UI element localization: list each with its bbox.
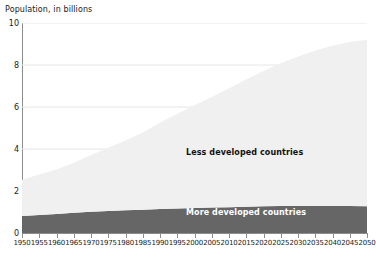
x-tick xyxy=(212,234,213,238)
y-tick-label: 8 xyxy=(3,61,19,70)
y-tick-label: 4 xyxy=(3,145,19,154)
x-tick-label: 1965 xyxy=(65,239,82,247)
x-axis-ticks xyxy=(22,234,368,238)
x-tick xyxy=(74,234,75,238)
x-tick-label: 1960 xyxy=(48,239,65,247)
x-tick-label: 1955 xyxy=(31,239,48,247)
x-tick-label: 1975 xyxy=(100,239,117,247)
series-label-less-developed: Less developed countries xyxy=(186,148,303,157)
x-tick-label: 1985 xyxy=(134,239,151,247)
x-tick xyxy=(177,234,178,238)
y-tick-label: 6 xyxy=(3,103,19,112)
x-tick-label: 1995 xyxy=(169,239,186,247)
x-tick-label: 1990 xyxy=(151,239,168,247)
x-tick xyxy=(108,234,109,238)
x-tick xyxy=(315,234,316,238)
x-tick-label: 2050 xyxy=(358,239,375,247)
x-tick-label: 2030 xyxy=(289,239,306,247)
x-tick xyxy=(143,234,144,238)
x-tick-label: 1980 xyxy=(117,239,134,247)
x-tick-label: 2015 xyxy=(238,239,255,247)
x-tick-label: 2035 xyxy=(307,239,324,247)
x-tick xyxy=(91,234,92,238)
x-tick xyxy=(229,234,230,238)
x-tick xyxy=(39,234,40,238)
x-tick xyxy=(246,234,247,238)
x-tick-label: 1950 xyxy=(13,239,30,247)
x-tick xyxy=(350,234,351,238)
x-tick-label: 1970 xyxy=(82,239,99,247)
x-tick xyxy=(22,234,23,238)
x-tick xyxy=(367,234,368,238)
x-tick-label: 2040 xyxy=(324,239,341,247)
y-axis-tick-labels: 0246810 xyxy=(0,0,19,260)
x-tick-label: 2010 xyxy=(220,239,237,247)
x-tick xyxy=(57,234,58,238)
x-tick-label: 2025 xyxy=(272,239,289,247)
x-tick xyxy=(281,234,282,238)
area-series xyxy=(22,40,367,216)
x-tick xyxy=(333,234,334,238)
x-tick-label: 2045 xyxy=(341,239,358,247)
x-tick xyxy=(298,234,299,238)
x-axis-tick-labels: 1950195519601965197019751980198519901995… xyxy=(0,239,372,253)
x-tick-label: 2000 xyxy=(186,239,203,247)
y-tick-label: 2 xyxy=(3,187,19,196)
series-label-more-developed: More developed countries xyxy=(186,208,306,217)
plot-area xyxy=(22,23,367,233)
x-tick-label: 2005 xyxy=(203,239,220,247)
y-tick-label: 10 xyxy=(3,19,19,28)
x-tick xyxy=(126,234,127,238)
x-tick-label: 2020 xyxy=(255,239,272,247)
x-tick xyxy=(195,234,196,238)
x-tick xyxy=(160,234,161,238)
y-tick-label: 0 xyxy=(3,229,19,238)
stacked-area-series xyxy=(22,23,367,233)
x-tick xyxy=(264,234,265,238)
